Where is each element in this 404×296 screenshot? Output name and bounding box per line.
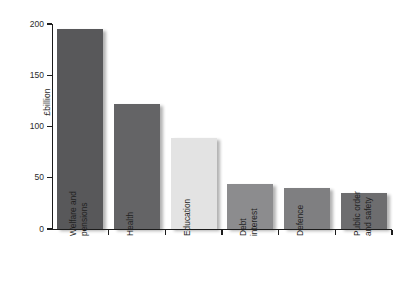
y-axis-tick-label: 150 (4, 70, 44, 80)
x-axis-category-label: and safety (363, 197, 374, 236)
x-axis-category-label: Defence (295, 205, 306, 236)
x-axis-tick (221, 230, 222, 235)
bar-rect (284, 188, 330, 229)
y-axis-tick-label: 100 (4, 121, 44, 131)
x-axis-tick (108, 230, 109, 235)
x-axis-tick (278, 230, 279, 235)
x-axis-tick (165, 230, 166, 235)
y-axis-tick-label: 50 (4, 172, 44, 182)
bar-chart-figure: £billion 050100150200 Welfare andpension… (0, 0, 404, 296)
y-axis-tick-label: 0 (4, 224, 44, 234)
x-axis-tick (335, 230, 336, 235)
x-axis-category-label: Debt (238, 218, 249, 236)
bar[interactable] (57, 29, 103, 229)
x-axis-category-label: interest (249, 209, 260, 236)
x-axis-category-label: Welfare and (68, 191, 79, 236)
bar[interactable] (284, 188, 330, 229)
bar[interactable] (171, 138, 217, 229)
x-axis-category-label: Education (182, 199, 193, 236)
x-axis-category-label: pensions (79, 202, 90, 236)
bar[interactable] (114, 104, 160, 229)
x-axis-tick (391, 230, 392, 235)
bar-rect (57, 29, 103, 229)
x-axis-category-label: Health (125, 212, 136, 236)
y-axis-tick-label: 200 (4, 19, 44, 29)
bar-rect (114, 104, 160, 229)
bar-rect (171, 138, 217, 229)
plot-area (52, 24, 392, 229)
x-axis-category-label: Public order (352, 191, 363, 236)
